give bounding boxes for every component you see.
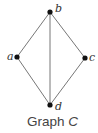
caption-variable: C: [68, 114, 78, 129]
node-d: [47, 102, 52, 107]
edge-a-b: [17, 12, 50, 57]
edge-b-c: [50, 12, 85, 58]
graph-diagram: a b c d Graph C: [0, 0, 98, 133]
node-a: [14, 54, 19, 59]
node-label-a: a: [7, 50, 14, 63]
node-label-c: c: [89, 51, 95, 64]
node-label-d: d: [55, 100, 62, 113]
edge-c-d: [50, 58, 85, 105]
nodes: [14, 9, 87, 107]
edges: [17, 12, 85, 105]
edge-a-d: [17, 57, 50, 105]
node-b: [47, 9, 52, 14]
node-labels: a b c d: [7, 2, 95, 113]
node-label-b: b: [55, 2, 62, 15]
caption-prefix: Graph: [27, 114, 68, 129]
graph-caption: Graph C: [27, 114, 78, 129]
node-c: [82, 55, 87, 60]
